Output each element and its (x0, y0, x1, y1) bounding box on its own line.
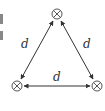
edge-label-left: d (21, 38, 29, 50)
edge-label-right: d (83, 38, 91, 50)
edge-label-bottom: d (53, 71, 61, 83)
node-bottom-left-icon (12, 81, 22, 91)
node-bottom-right-icon (92, 81, 102, 91)
node-top-icon (52, 9, 62, 19)
triangle-diagram (0, 0, 105, 111)
